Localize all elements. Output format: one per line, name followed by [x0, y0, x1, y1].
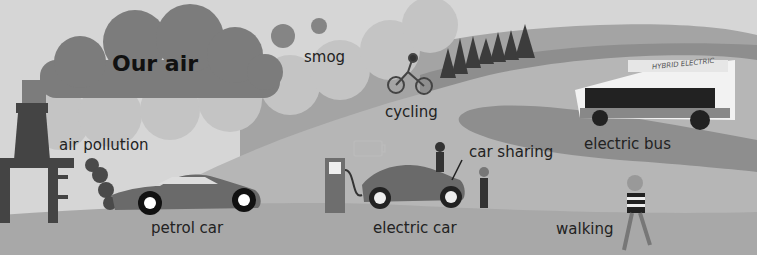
- bottom-margin: [0, 255, 757, 271]
- label-cycling: cycling: [385, 105, 438, 120]
- label-electric-car: electric car: [373, 221, 457, 236]
- label-air-pollution: air pollution: [59, 138, 149, 153]
- page-title: Our air: [112, 53, 198, 75]
- smog-puff: [271, 24, 295, 48]
- smog-puff: [311, 18, 327, 34]
- scene-artwork: [0, 0, 757, 255]
- illustration-scene: Our air smog cycling air pollution elect…: [0, 0, 757, 255]
- label-electric-bus: electric bus: [584, 137, 671, 152]
- label-car-sharing: car sharing: [469, 145, 553, 160]
- label-walking: walking: [556, 222, 614, 237]
- label-smog: smog: [304, 50, 345, 65]
- label-petrol-car: petrol car: [151, 221, 223, 236]
